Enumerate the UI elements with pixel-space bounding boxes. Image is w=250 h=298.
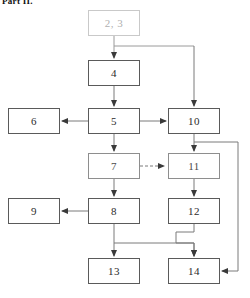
node-6[interactable]: 6 bbox=[8, 108, 60, 134]
node-10[interactable]: 10 bbox=[168, 108, 220, 134]
node-14[interactable]: 14 bbox=[168, 258, 220, 284]
node-9[interactable]: 9 bbox=[8, 198, 60, 224]
node-7[interactable]: 7 bbox=[88, 153, 140, 179]
node-12[interactable]: 12 bbox=[168, 198, 220, 224]
node-11[interactable]: 11 bbox=[168, 153, 220, 179]
node-2-3[interactable]: 2, 3 bbox=[88, 10, 140, 36]
node-5[interactable]: 5 bbox=[88, 108, 140, 134]
connector-layer bbox=[0, 0, 250, 298]
flowchart-figure: Part II. bbox=[0, 0, 250, 298]
node-8[interactable]: 8 bbox=[88, 198, 140, 224]
node-13[interactable]: 13 bbox=[88, 258, 140, 284]
node-4[interactable]: 4 bbox=[88, 60, 140, 86]
figure-caption: Part II. bbox=[2, 0, 33, 5]
